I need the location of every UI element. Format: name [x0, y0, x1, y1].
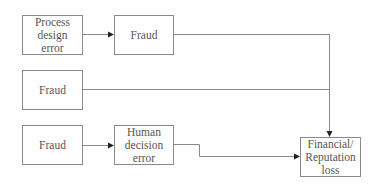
node-human-decision-error: Human decision error	[114, 125, 174, 165]
edge-fraud-top-to-loss	[174, 35, 330, 132]
node-process-design-error: Process design error	[22, 15, 83, 55]
node-fraud-middle: Fraud	[22, 70, 83, 110]
node-fraud-bottom: Fraud	[22, 125, 83, 165]
edge-human-to-loss	[174, 145, 295, 157]
node-fraud-top: Fraud	[114, 15, 174, 55]
node-financial-reputation-loss: Financial/ Reputation loss	[300, 137, 361, 177]
